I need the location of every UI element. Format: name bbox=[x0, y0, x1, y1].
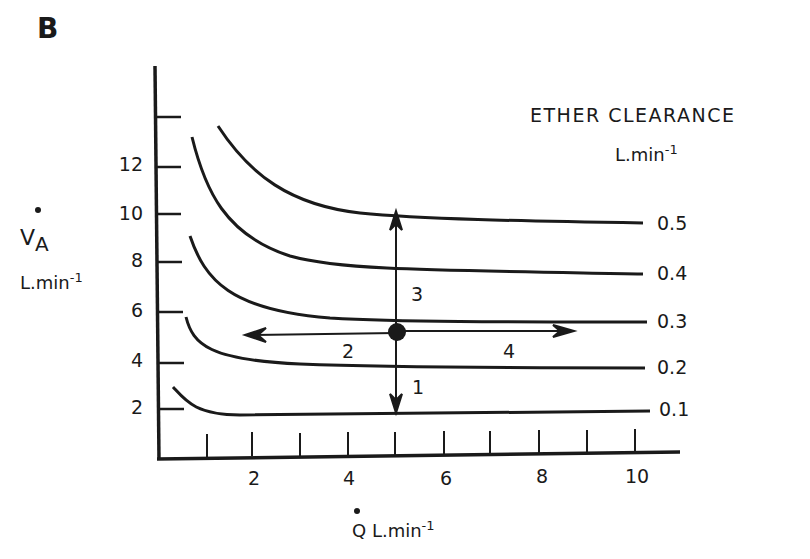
legend-title: ETHER CLEARANCE bbox=[530, 104, 735, 126]
curve-label-0.2: 0.2 bbox=[657, 356, 687, 378]
y-axis-label: VA bbox=[20, 225, 49, 250]
path-arrows bbox=[245, 211, 574, 413]
x-tick-label: 2 bbox=[234, 467, 274, 489]
legend-unit: L.min-1 bbox=[615, 142, 678, 165]
x-tick-label: 6 bbox=[426, 467, 466, 489]
x-label-dot bbox=[354, 508, 360, 514]
path-label-4: 4 bbox=[503, 340, 515, 362]
curve-label-0.4: 0.4 bbox=[657, 262, 687, 284]
curve-label-0.1: 0.1 bbox=[659, 398, 689, 420]
y-axis-ticks bbox=[157, 117, 184, 409]
y-tick-label: 4 bbox=[103, 349, 143, 371]
x-axis bbox=[157, 452, 680, 459]
curve-0.2 bbox=[186, 317, 645, 368]
y-tick-label: 8 bbox=[103, 249, 143, 271]
curve-label-0.3: 0.3 bbox=[657, 310, 687, 332]
x-tick-label: 4 bbox=[329, 467, 369, 489]
clearance-curves bbox=[173, 126, 650, 415]
y-label-dot bbox=[35, 207, 41, 213]
path-label-2: 2 bbox=[342, 340, 354, 362]
path-label-1: 1 bbox=[412, 376, 424, 398]
curve-0.4 bbox=[192, 137, 643, 274]
y-tick-label: 6 bbox=[103, 299, 143, 321]
x-tick-label: 8 bbox=[522, 465, 562, 487]
chart-plot-area bbox=[0, 0, 810, 559]
y-tick-label: 12 bbox=[103, 153, 143, 175]
operating-point-marker bbox=[388, 323, 406, 341]
x-axis-label: Q L.min-1 bbox=[352, 518, 435, 541]
arrow-2-line bbox=[252, 333, 396, 335]
curve-0.5 bbox=[218, 126, 643, 223]
x-tick-label: 10 bbox=[617, 465, 657, 487]
curve-label-0.5: 0.5 bbox=[657, 212, 687, 234]
y-tick-label: 2 bbox=[103, 396, 143, 418]
curve-0.3 bbox=[190, 236, 647, 322]
path-label-3: 3 bbox=[411, 283, 423, 305]
y-axis-unit: L.min-1 bbox=[20, 270, 83, 293]
y-tick-label: 10 bbox=[103, 202, 143, 224]
